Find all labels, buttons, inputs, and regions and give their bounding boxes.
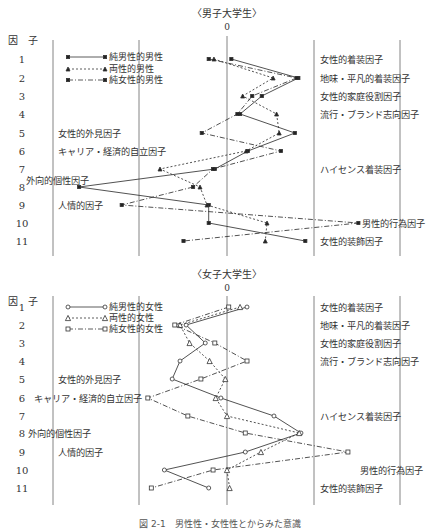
square-marker-icon: [346, 450, 350, 454]
figure-caption: 図 2-1 男性性・女性性とからみた意識: [0, 517, 440, 530]
square-marker-icon: [251, 94, 254, 97]
legend-label: 純男性的男性: [109, 51, 163, 62]
circle-marker-icon: [103, 305, 107, 309]
square-marker-icon: [260, 94, 263, 97]
triangle-marker-icon: [66, 67, 70, 71]
male-students-chart: 〈男子大学生〉0因 子1234567891011女性的着装因子地味・平凡的着装因…: [8, 7, 425, 256]
square-marker-icon: [279, 149, 282, 152]
factor-label: 地味・平凡的着装因子: [320, 73, 410, 84]
row-number: 10: [16, 218, 29, 229]
square-marker-icon: [207, 221, 210, 224]
triangle-marker-icon: [258, 449, 263, 454]
row-number: 7: [19, 164, 25, 175]
square-marker-icon: [200, 131, 203, 134]
row-number: 11: [16, 236, 29, 247]
row-number: 4: [19, 356, 25, 367]
row-number: 1: [19, 54, 25, 65]
legend-label: 純女性的女性: [109, 323, 163, 334]
square-marker-icon: [103, 327, 107, 331]
row-number: 2: [19, 73, 25, 84]
square-marker-icon: [295, 76, 298, 79]
circle-marker-icon: [219, 396, 223, 400]
square-marker-icon: [293, 131, 296, 134]
square-marker-icon: [211, 167, 214, 170]
factor-label: 流行・ブランド志向因子: [320, 356, 419, 367]
square-marker-icon: [186, 414, 190, 418]
square-marker-icon: [182, 239, 185, 242]
triangle-marker-icon: [102, 315, 107, 320]
square-marker-icon: [78, 185, 81, 188]
legend-label: 両性的男性: [109, 63, 154, 74]
triangle-marker-icon: [271, 76, 275, 80]
row-number: 8: [19, 428, 25, 439]
factor-label: 人情的因子: [58, 447, 103, 458]
square-marker-icon: [230, 57, 233, 60]
triangle-marker-icon: [241, 94, 245, 98]
circle-marker-icon: [245, 305, 249, 309]
row-number: 5: [19, 374, 25, 385]
circle-marker-icon: [162, 468, 166, 472]
square-marker-icon: [66, 78, 69, 81]
row-number: 1: [19, 302, 25, 313]
row-number: 5: [19, 128, 25, 139]
factor-label: 女性的着装因子: [320, 302, 383, 313]
square-marker-icon: [191, 185, 194, 188]
triangle-marker-icon: [213, 395, 218, 400]
factor-label: 人情的因子: [58, 200, 103, 211]
zero-axis-label: 0: [224, 22, 230, 32]
triangle-marker-icon: [263, 239, 267, 243]
factor-label: 女性的外見因子: [58, 128, 121, 139]
legend-label: 純女性的男性: [109, 74, 163, 85]
triangle-marker-icon: [103, 67, 107, 71]
row-number: 2: [19, 320, 25, 331]
square-marker-icon: [103, 78, 106, 81]
triangle-marker-icon: [212, 57, 216, 61]
square-marker-icon: [245, 359, 249, 363]
row-number: 9: [19, 447, 25, 458]
square-marker-icon: [66, 327, 70, 331]
triangle-marker-icon: [237, 304, 242, 309]
circle-marker-icon: [170, 377, 174, 381]
female-students-chart: 〈女子大学生〉0因 子1234567891011女性的着装因子地味・平凡的着装因…: [8, 268, 423, 505]
triangle-marker-icon: [224, 413, 229, 418]
row-number: 7: [19, 411, 25, 422]
circle-marker-icon: [203, 341, 207, 345]
triangle-marker-icon: [187, 340, 192, 345]
factor-label: 女性的着装因子: [320, 54, 383, 65]
row-number: 11: [16, 483, 29, 494]
factor-label: 流行・ブランド志向因子: [320, 109, 419, 120]
square-marker-icon: [213, 341, 217, 345]
square-marker-icon: [236, 112, 239, 115]
factor-label: 男性的行為因子: [362, 218, 425, 229]
chart-title: 〈女子大学生〉: [192, 268, 262, 280]
factor-label: 女性的外見因子: [58, 374, 121, 385]
factor-label: キャリア・経済的自立因子: [58, 146, 166, 157]
row-number: 10: [16, 465, 29, 476]
triangle-marker-icon: [277, 131, 281, 135]
factor-label: キャリア・経済的自立因子: [34, 393, 142, 404]
square-marker-icon: [146, 396, 150, 400]
square-marker-icon: [173, 323, 177, 327]
series-line: [180, 307, 299, 488]
row-number: 8: [19, 182, 25, 193]
series-line: [160, 59, 279, 241]
row-number: 6: [19, 393, 25, 404]
triangle-marker-icon: [158, 167, 162, 171]
row-number: 3: [19, 338, 25, 349]
circle-marker-icon: [272, 414, 276, 418]
legend-label: 純男性的女性: [109, 301, 163, 312]
square-marker-icon: [207, 57, 210, 60]
row-number: 6: [19, 146, 25, 157]
factor-label: 外向的個性因子: [28, 428, 91, 439]
row-number: 9: [19, 200, 25, 211]
factor-label: 地味・平凡的着装因子: [320, 320, 410, 331]
triangle-marker-icon: [207, 358, 212, 363]
factor-column-header: 因 子: [8, 35, 38, 46]
triangle-marker-icon: [227, 485, 232, 490]
circle-marker-icon: [207, 486, 211, 490]
chart-title: 〈男子大学生〉: [192, 7, 262, 19]
factor-label: 女性的家庭役割因子: [320, 338, 401, 349]
triangle-marker-icon: [265, 221, 269, 225]
factor-label: 外向的個性因子: [26, 175, 89, 186]
circle-marker-icon: [178, 359, 182, 363]
